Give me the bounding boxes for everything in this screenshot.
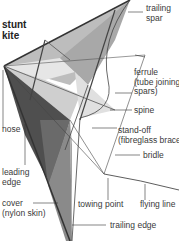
- label-trailing-edge: trailing edge: [110, 221, 156, 231]
- label-leading-edge: leading edge: [2, 168, 29, 187]
- label-ferrule: ferrule (tube joining spars): [134, 68, 179, 97]
- label-stand-off: stand-off (fibreglass brace): [118, 126, 179, 145]
- label-towing-point: towing point: [78, 200, 123, 210]
- label-bridle: bridle: [143, 151, 164, 161]
- label-trailing-spar: trailing spar: [146, 4, 171, 23]
- diagram-title: stunt kite: [2, 19, 26, 41]
- label-flying-line: flying line: [140, 200, 175, 210]
- label-cover: cover (nylon skin): [2, 199, 45, 218]
- label-nose: nose: [2, 125, 20, 135]
- label-spine: spine: [134, 106, 154, 116]
- flying-line: [104, 174, 179, 190]
